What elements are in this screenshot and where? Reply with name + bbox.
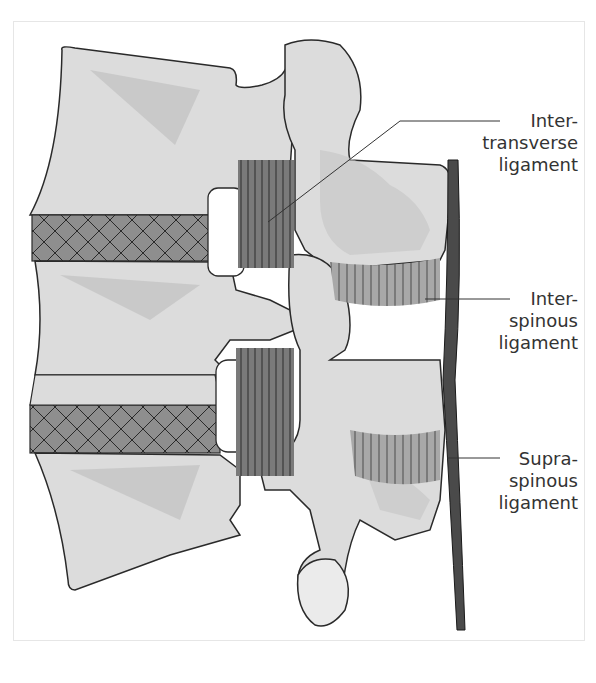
interspinous-ligament-lower — [350, 430, 440, 484]
spinous-process-tip — [298, 559, 349, 626]
label-line: transverse — [458, 132, 578, 154]
label-interspinous-ligament: Inter- spinous ligament — [458, 288, 578, 354]
label-supraspinous-ligament: Supra- spinous ligament — [458, 448, 578, 514]
label-line: spinous — [458, 310, 578, 332]
lower-intervertebral-disc — [30, 405, 220, 453]
intertransverse-ligament-upper — [238, 160, 294, 268]
label-line: Inter- — [458, 288, 578, 310]
label-line: ligament — [458, 332, 578, 354]
label-line: ligament — [458, 154, 578, 176]
label-intertransverse-ligament: Inter- transverse ligament — [458, 110, 578, 176]
label-line: Inter- — [458, 110, 578, 132]
interspinous-ligament-upper — [330, 258, 440, 306]
lower-vertebral-body — [35, 453, 240, 590]
label-line: ligament — [458, 492, 578, 514]
intertransverse-ligament-lower — [236, 348, 294, 476]
label-line: Supra- — [458, 448, 578, 470]
label-line: spinous — [458, 470, 578, 492]
upper-intervertebral-disc — [32, 215, 212, 261]
